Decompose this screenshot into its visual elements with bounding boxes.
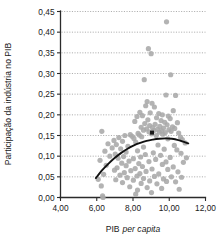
x-axis-title-italic: per capita xyxy=(122,224,161,234)
data-point xyxy=(101,172,106,177)
y-tick-label: 0,40 xyxy=(38,27,55,37)
data-point xyxy=(163,92,168,97)
data-point xyxy=(148,110,153,115)
y-tick-label: 0,35 xyxy=(38,48,55,58)
x-tick-label: 4,00 xyxy=(52,203,69,213)
x-axis-title-plain: PIB xyxy=(106,224,120,234)
data-point xyxy=(121,154,126,159)
x-tick-label: 8,00 xyxy=(125,203,142,213)
data-point xyxy=(168,72,173,77)
data-point xyxy=(120,180,125,185)
x-tick-label: 6,00 xyxy=(89,203,106,213)
data-point xyxy=(164,19,169,24)
data-point xyxy=(97,158,102,163)
data-point xyxy=(141,128,146,133)
data-point xyxy=(139,134,144,139)
data-point xyxy=(132,119,137,124)
x-axis: 4,006,008,0010,0012,00 xyxy=(52,198,216,213)
data-point xyxy=(151,150,156,155)
scatter-points-group xyxy=(96,19,189,200)
data-point xyxy=(152,174,157,179)
data-point xyxy=(142,121,147,126)
data-point xyxy=(174,147,179,152)
data-point xyxy=(177,187,182,192)
data-point xyxy=(173,179,178,184)
data-point xyxy=(168,116,173,121)
data-point xyxy=(127,184,132,189)
x-tick-label: 10,00 xyxy=(159,203,180,213)
data-point xyxy=(160,132,165,137)
y-tick-label: 0,25 xyxy=(38,89,55,99)
gridlines-group xyxy=(62,12,206,177)
data-point xyxy=(141,144,146,149)
data-point xyxy=(134,173,139,178)
data-point xyxy=(102,149,107,154)
data-point xyxy=(117,173,122,178)
data-point xyxy=(152,104,157,109)
data-point xyxy=(133,192,138,197)
data-point xyxy=(138,154,143,159)
data-point xyxy=(147,178,152,183)
data-point xyxy=(149,166,154,171)
data-point xyxy=(165,167,170,172)
data-point xyxy=(146,159,151,164)
y-tick-label: 0,45 xyxy=(38,7,55,17)
data-point xyxy=(114,142,119,147)
data-point xyxy=(160,112,165,117)
data-point xyxy=(146,46,151,51)
y-tick-label: 0,30 xyxy=(38,69,55,79)
data-point xyxy=(175,169,180,174)
data-point xyxy=(99,183,104,188)
y-axis-tick-labels: 0,000,050,100,150,200,250,300,350,400,45 xyxy=(38,7,55,203)
y-tick-label: 0,05 xyxy=(38,172,55,182)
data-point xyxy=(126,159,131,164)
y-tick-label: 0,15 xyxy=(38,131,55,141)
data-point xyxy=(154,181,159,186)
y-axis-title: Participação da indústria no PIB xyxy=(3,43,13,166)
chart-canvas: 0,000,050,100,150,200,250,300,350,400,45… xyxy=(0,0,221,240)
data-point xyxy=(122,133,127,138)
data-point xyxy=(156,171,161,176)
data-point xyxy=(143,103,148,108)
data-point xyxy=(140,164,145,169)
data-point xyxy=(168,129,173,134)
data-point xyxy=(113,177,118,182)
data-point xyxy=(131,178,136,183)
data-point xyxy=(135,148,140,153)
data-point xyxy=(100,195,105,200)
data-point xyxy=(110,145,115,150)
data-point xyxy=(141,176,146,181)
data-point xyxy=(149,51,154,56)
data-point xyxy=(171,164,176,169)
data-point xyxy=(154,115,159,120)
data-point xyxy=(158,153,163,158)
data-point xyxy=(160,162,165,167)
data-point xyxy=(112,168,117,173)
highlighted-point-marker xyxy=(150,131,154,135)
data-point xyxy=(143,169,148,174)
data-point xyxy=(120,139,125,144)
data-point xyxy=(143,152,148,157)
data-point xyxy=(178,151,183,156)
data-point xyxy=(145,185,150,190)
data-point xyxy=(184,155,189,160)
data-point xyxy=(105,141,110,146)
data-point xyxy=(164,179,169,184)
data-point xyxy=(154,133,159,138)
data-point xyxy=(107,154,112,159)
data-point xyxy=(142,77,147,82)
data-point xyxy=(169,174,174,179)
data-point xyxy=(179,175,184,180)
data-point xyxy=(159,186,164,191)
data-point xyxy=(124,163,129,168)
y-tick-label: 0,00 xyxy=(38,193,55,203)
data-point xyxy=(155,142,160,147)
data-point xyxy=(162,147,167,152)
data-point xyxy=(139,181,144,186)
data-point xyxy=(116,135,121,140)
data-point xyxy=(149,190,154,195)
data-point xyxy=(122,170,127,175)
data-point xyxy=(125,175,130,180)
data-point xyxy=(118,146,123,151)
x-tick-label: 12,00 xyxy=(195,203,216,213)
